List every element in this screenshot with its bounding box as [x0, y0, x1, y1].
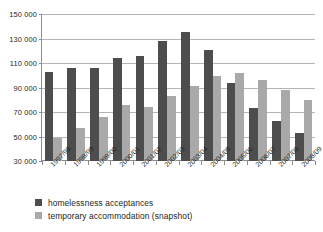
legend-swatch-icon	[35, 199, 42, 206]
y-tick-label: 110 000	[0, 59, 37, 68]
bar-homelessness-2003-04	[181, 32, 190, 161]
y-tick-label: 70 000	[0, 108, 37, 117]
bar-group	[272, 14, 289, 161]
bar-temporary-2005-06	[235, 73, 244, 161]
legend-item-0: homelessness acceptances	[35, 196, 192, 209]
legend-label: homelessness acceptances	[48, 198, 153, 208]
legend-label: temporary accommodation (snapshot)	[48, 211, 192, 221]
bar-group	[136, 14, 153, 161]
bar-group	[181, 14, 198, 161]
bar-homelessness-2002-03	[158, 41, 167, 161]
legend-swatch-icon	[35, 212, 42, 219]
x-tick-mark	[315, 161, 316, 165]
bars-layer	[42, 14, 315, 161]
bar-group	[158, 14, 175, 161]
x-axis: 1997/981998/991999/002000/012001/022002/…	[42, 163, 315, 193]
legend-item-1: temporary accommodation (snapshot)	[35, 209, 192, 222]
bar-group	[90, 14, 107, 161]
y-tick-label: 30 000	[0, 157, 37, 166]
bar-group	[204, 14, 221, 161]
bar-group	[113, 14, 130, 161]
bar-homelessness-2007-08	[272, 121, 281, 161]
bar-temporary-2006-07	[258, 80, 267, 161]
bar-group	[67, 14, 84, 161]
bar-temporary-2003-04	[190, 86, 199, 161]
bar-homelessness-2004-05	[204, 50, 213, 161]
bar-group	[227, 14, 244, 161]
y-tick-label: 150 000	[0, 10, 37, 19]
chart-legend: homelessness acceptancestemporary accomm…	[35, 196, 192, 222]
y-tick-label: 130 000	[0, 35, 37, 44]
bar-temporary-2004-05	[213, 76, 222, 161]
bar-group	[45, 14, 62, 161]
y-tick-label: 50 000	[0, 133, 37, 142]
bar-chart: 1997/981998/991999/002000/012001/022002/…	[0, 0, 323, 232]
bar-group	[295, 14, 312, 161]
bar-group	[249, 14, 266, 161]
y-tick-label: 90 000	[0, 84, 37, 93]
bar-homelessness-1997-98	[45, 72, 54, 161]
